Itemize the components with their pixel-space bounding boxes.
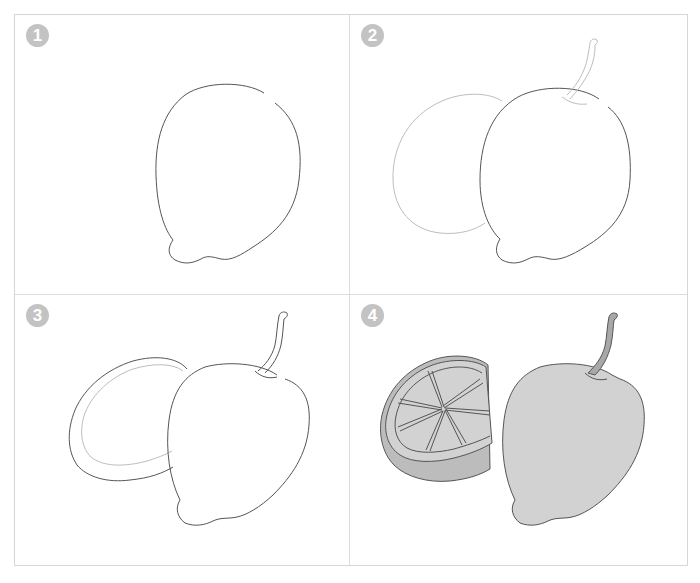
step-panel-3: 3 xyxy=(15,295,350,565)
step-panel-1: 1 xyxy=(15,15,350,295)
lemon-with-stem-drawing xyxy=(350,15,687,295)
step-panel-4: 4 xyxy=(350,295,687,565)
drawing-guide-sheet: 1 2 3 4 xyxy=(14,14,688,566)
lemon-and-half-drawing xyxy=(15,295,350,565)
step-panel-2: 2 xyxy=(350,15,687,295)
lemon-outline-drawing xyxy=(15,15,350,295)
shaded-lemon-drawing xyxy=(350,295,687,565)
